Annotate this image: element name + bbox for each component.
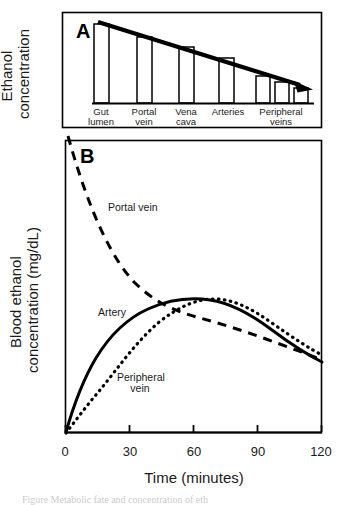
x-tick-label-30: 30 (123, 444, 137, 459)
cat-label-gut-lumen-line2: lumen (88, 116, 114, 127)
bar-portal-vein (137, 37, 152, 103)
x-tick-label-120: 120 (310, 444, 332, 459)
figure-container: Ethanol concentration A (0, 0, 345, 505)
panel-b-x-axis-label: Time (minutes) (144, 469, 243, 486)
panel-a-y-axis-label-line2: concentration (15, 29, 32, 119)
curve-label-peripheral-vein-line2: vein (130, 382, 149, 394)
caption-line: Figure Metabolic fate and concentration … (22, 494, 208, 505)
figure-caption-partial: Figure Metabolic fate and concentration … (22, 494, 208, 505)
x-tick-label-60: 60 (187, 444, 201, 459)
panel-a-letter: A (76, 20, 90, 42)
x-tick-label-90: 90 (251, 444, 265, 459)
panel-b-frame (66, 141, 322, 433)
figure-svg: Ethanol concentration A (0, 0, 345, 505)
panel-a-y-axis-label: Ethanol concentration (0, 29, 32, 119)
curve-label-artery: Artery (98, 306, 127, 318)
panel-a-y-axis-label-line1: Ethanol (0, 51, 15, 102)
panel-b: Blood ethanol concentration (mg/dL) B Po… (7, 136, 332, 486)
cat-label-portal-vein-line2: vein (135, 116, 152, 127)
cat-label-vena-cava-line2: cava (176, 116, 197, 127)
x-tick-label-0: 0 (61, 444, 68, 459)
panel-b-y-axis-label-line2: concentration (mg/dL) (24, 227, 41, 373)
panel-a: Ethanol concentration A (0, 13, 322, 128)
bar-peripheral-1 (256, 76, 270, 103)
panel-b-letter: B (80, 145, 94, 167)
curve-label-portal-vein: Portal vein (108, 201, 158, 213)
panel-b-y-axis-label: Blood ethanol concentration (mg/dL) (7, 227, 41, 373)
cat-label-peripheral-veins-line2: veins (270, 116, 292, 127)
panel-b-y-axis-label-line1: Blood ethanol (7, 256, 24, 348)
cat-label-arteries: Arteries (212, 106, 245, 117)
bar-vena-cava (179, 47, 194, 103)
bar-peripheral-2 (275, 82, 289, 103)
bar-gut-lumen (94, 24, 109, 103)
